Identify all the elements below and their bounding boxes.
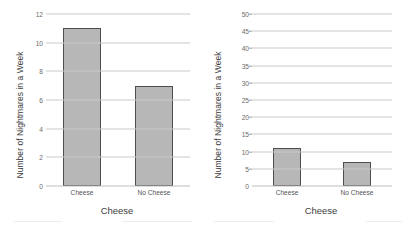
- y-tick-label-left: 8: [39, 68, 46, 75]
- y-tick-label-left: 0: [39, 183, 46, 190]
- gridline-left: [46, 71, 190, 72]
- y-tick-mark-right: [249, 48, 252, 49]
- gridline-left: [46, 42, 190, 43]
- gridline-right: [252, 48, 392, 49]
- gridline-right: [252, 151, 392, 152]
- gridline-left: [46, 157, 190, 158]
- y-tick-label-right: 0: [245, 183, 252, 190]
- y-tick-mark-right: [249, 82, 252, 83]
- y-tick-label-left: 10: [36, 39, 46, 46]
- y-tick-mark-right: [249, 168, 252, 169]
- gridline-right: [252, 186, 392, 187]
- y-axis-title-right: Number of Nightmares in a Week: [210, 0, 226, 230]
- decor-line-right-a: [214, 221, 274, 222]
- bar: Cheese: [273, 148, 301, 186]
- gridline-left: [46, 14, 190, 15]
- gridline-right: [252, 100, 392, 101]
- y-tick-label-left: 4: [39, 125, 46, 132]
- bar-chart-figure: Number of Nightmares in a Week CheeseNo …: [0, 0, 408, 230]
- gridline-right: [252, 117, 392, 118]
- bar: Cheese: [63, 28, 100, 186]
- y-tick-label-left: 6: [39, 97, 46, 104]
- y-tick-label-left: 12: [36, 11, 46, 18]
- x-axis-title-right: Cheese: [244, 205, 398, 216]
- y-tick-mark-right: [249, 65, 252, 66]
- plot-area-left: CheeseNo Cheese 024681012: [46, 14, 190, 186]
- gridline-right: [252, 14, 392, 15]
- gridline-left: [46, 186, 190, 187]
- y-tick-mark-right: [249, 100, 252, 101]
- x-tick-label-left: Cheese: [71, 189, 94, 196]
- decor-line-left-a: [14, 221, 62, 222]
- x-tick-label-right: Cheese: [276, 189, 299, 196]
- x-tick-label-left: No Cheese: [137, 189, 170, 196]
- decor-line-right-b: [366, 221, 402, 222]
- y-tick-mark-right: [249, 31, 252, 32]
- gridline-right: [252, 65, 392, 66]
- gridline-right: [252, 134, 392, 135]
- y-tick-mark-right: [249, 117, 252, 118]
- y-tick-mark-right: [249, 134, 252, 135]
- gridline-right: [252, 168, 392, 169]
- gridline-left: [46, 128, 190, 129]
- chart-panel-left: Number of Nightmares in a Week CheeseNo …: [0, 0, 204, 230]
- chart-panel-right: Number of Nightmares in a Week CheeseNo …: [204, 0, 408, 230]
- y-axis-title-left: Number of Nightmares in a Week: [12, 0, 28, 230]
- bar: No Cheese: [135, 86, 172, 186]
- bar: No Cheese: [343, 162, 371, 186]
- gridline-right: [252, 82, 392, 83]
- decor-line-left-b: [122, 221, 192, 222]
- y-tick-label-left: 2: [39, 154, 46, 161]
- y-tick-mark-right: [249, 151, 252, 152]
- y-tick-mark-right: [249, 14, 252, 15]
- x-axis-title-left: Cheese: [40, 205, 194, 216]
- x-tick-label-right: No Cheese: [341, 189, 374, 196]
- plot-area-right: CheeseNo Cheese 05101520253035404550: [252, 14, 392, 186]
- gridline-left: [46, 100, 190, 101]
- gridline-right: [252, 31, 392, 32]
